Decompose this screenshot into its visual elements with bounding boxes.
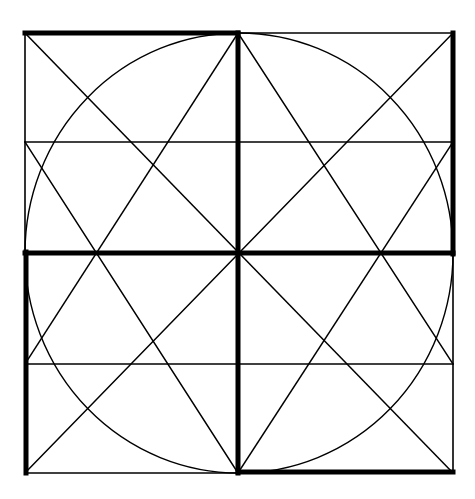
- geometric-diagram: [0, 0, 475, 499]
- line-bottomcenter-right: [238, 142, 453, 473]
- line-topcenter-right: [238, 33, 453, 364]
- line-bottomcenter-left: [25, 142, 238, 473]
- line-topcenter-left: [25, 33, 238, 364]
- diagram-canvas: [0, 0, 475, 499]
